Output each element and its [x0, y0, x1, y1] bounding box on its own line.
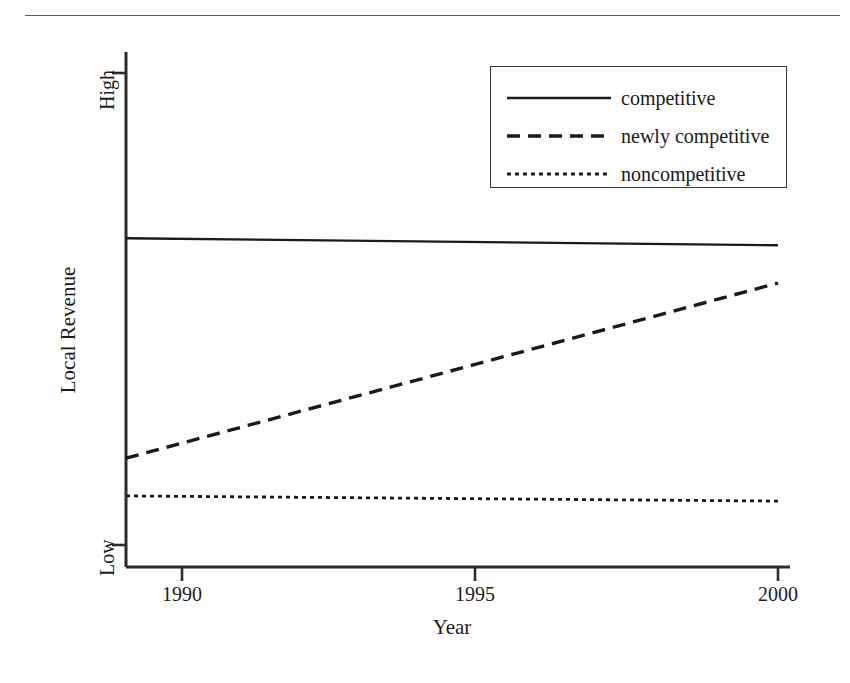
legend-label-noncompetitive: noncompetitive [621, 164, 745, 184]
figure-chart-local-revenue: Local Revenue High Low 1990 1995 2000 Ye… [0, 0, 850, 683]
y-axis-label: Local Revenue [56, 180, 81, 480]
y-tick-label-high: High [96, 70, 119, 110]
series-line-competitive [126, 238, 778, 245]
series-line-newly-competitive [126, 283, 778, 458]
legend-label-newly-competitive: newly competitive [621, 126, 769, 146]
legend-entry-noncompetitive: noncompetitive [507, 161, 745, 187]
x-tick-label-1990: 1990 [162, 583, 202, 606]
legend: competitive newly competitive noncompeti… [490, 66, 787, 188]
series-line-noncompetitive [126, 496, 778, 501]
legend-label-competitive: competitive [621, 88, 715, 108]
legend-swatch-dashed [507, 129, 611, 143]
x-tick-label-2000: 2000 [758, 583, 798, 606]
legend-swatch-solid [507, 91, 611, 105]
legend-entry-competitive: competitive [507, 85, 715, 111]
x-tick-label-1995: 1995 [455, 583, 495, 606]
y-tick-label-low: Low [96, 539, 119, 576]
legend-entry-newly-competitive: newly competitive [507, 123, 769, 149]
legend-swatch-dotted [507, 167, 611, 181]
x-axis-label: Year [433, 615, 472, 640]
